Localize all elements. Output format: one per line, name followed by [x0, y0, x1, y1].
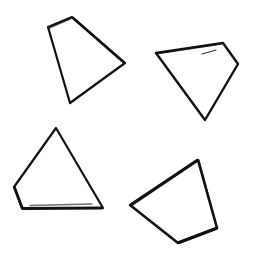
quadrilateral-bottom-left-heavy-base — [23, 208, 103, 209]
canvas-background — [0, 0, 256, 270]
drawing-canvas — [0, 0, 256, 270]
sketch-svg — [0, 0, 256, 270]
